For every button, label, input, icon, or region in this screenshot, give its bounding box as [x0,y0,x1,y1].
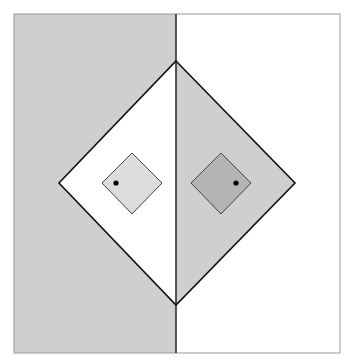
mirror-diamond-diagram [0,0,351,363]
right-dot [233,180,238,185]
left-dot [113,180,118,185]
